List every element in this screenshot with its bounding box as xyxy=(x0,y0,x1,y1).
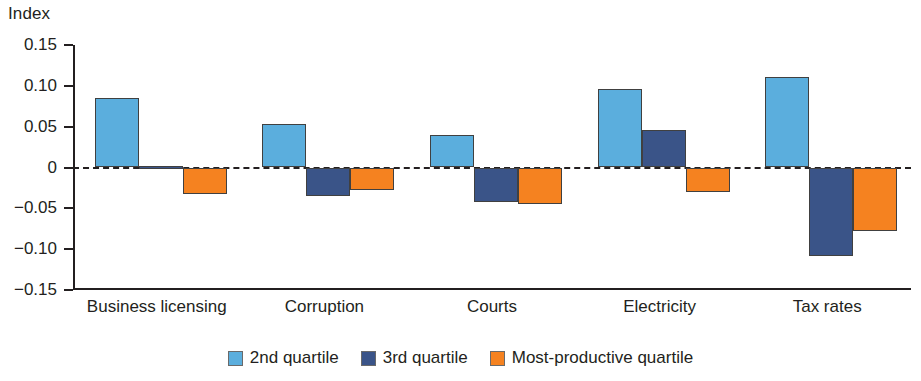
category-label: Business licensing xyxy=(73,297,241,317)
bar xyxy=(474,168,518,202)
y-tick-mark xyxy=(64,126,73,128)
y-tick-mark xyxy=(64,167,73,169)
y-tick-label: −0.15 xyxy=(14,280,57,300)
bar xyxy=(306,168,350,197)
category-label: Corruption xyxy=(241,297,409,317)
y-tick-label: 0.15 xyxy=(24,35,57,55)
bar xyxy=(430,135,474,168)
category-label: Tax rates xyxy=(743,297,911,317)
bar xyxy=(183,168,227,195)
y-tick-mark xyxy=(64,289,73,291)
y-tick-label: 0.10 xyxy=(24,76,57,96)
y-tick-label: 0.05 xyxy=(24,117,57,137)
legend-swatch-icon xyxy=(361,351,376,366)
bar-group xyxy=(95,45,227,290)
bar-group xyxy=(262,45,394,290)
bar xyxy=(139,166,183,169)
y-tick-mark xyxy=(64,248,73,250)
y-tick-mark xyxy=(64,207,73,209)
category-label: Electricity xyxy=(576,297,744,317)
bar xyxy=(809,168,853,256)
chart-figure: Index 0.150.100.050−0.05−0.10−0.15 Busin… xyxy=(0,0,921,381)
legend-item[interactable]: Most-productive quartile xyxy=(490,348,693,368)
legend-item[interactable]: 3rd quartile xyxy=(361,348,468,368)
bar xyxy=(853,168,897,232)
legend-label: Most-productive quartile xyxy=(512,348,693,368)
bar xyxy=(598,89,642,167)
y-tick-label: −0.10 xyxy=(14,239,57,259)
bar xyxy=(518,168,562,205)
bar xyxy=(262,124,306,167)
bar-group xyxy=(598,45,730,290)
legend-label: 2nd quartile xyxy=(250,348,339,368)
y-tick-label: −0.05 xyxy=(14,198,57,218)
bar-group xyxy=(430,45,562,290)
bar-group xyxy=(765,45,897,290)
legend-label: 3rd quartile xyxy=(383,348,468,368)
bar xyxy=(95,98,139,167)
legend-swatch-icon xyxy=(490,351,505,366)
legend-swatch-icon xyxy=(228,351,243,366)
bar xyxy=(350,168,394,190)
legend-item[interactable]: 2nd quartile xyxy=(228,348,339,368)
plot-area: 0.150.100.050−0.05−0.10−0.15 Business li… xyxy=(73,45,911,290)
y-axis-title: Index xyxy=(8,4,50,24)
chart-legend: 2nd quartile3rd quartileMost-productive … xyxy=(0,348,921,368)
bar xyxy=(765,77,809,168)
y-tick-mark xyxy=(64,85,73,87)
bar xyxy=(686,168,730,193)
y-tick-label: 0 xyxy=(48,158,57,178)
y-tick-mark xyxy=(64,44,73,46)
category-label: Courts xyxy=(408,297,576,317)
bar xyxy=(642,130,686,168)
